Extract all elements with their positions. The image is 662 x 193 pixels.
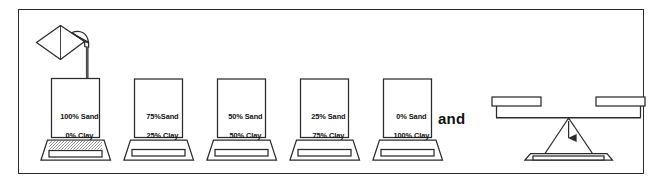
container-5-clay-text: 100% Clay xyxy=(394,131,430,140)
conjunction-text: and xyxy=(438,110,465,127)
container-2-label: 75%Sand 25% Clay xyxy=(134,103,183,149)
illustration-stage xyxy=(0,0,662,193)
container-1-clay-text: 0% Clay xyxy=(66,131,94,140)
container-5-label: 0% Sand 100% Clay xyxy=(383,103,432,149)
container-4-clay-text: 75% Clay xyxy=(313,131,345,140)
figure-root: 100% Sand 0% Clay 75%Sand 25% Clay 50% S… xyxy=(0,0,662,193)
container-2-sand-text: 75%Sand xyxy=(146,112,178,121)
container-4-sand-text: 25% Sand xyxy=(311,112,345,121)
balance-scale-icon xyxy=(492,97,645,160)
container-1-label: 100% Sand 0% Clay xyxy=(51,103,100,149)
container-1-sand-text: 100% Sand xyxy=(60,112,98,121)
line-art-svg xyxy=(0,0,662,193)
container-3-sand-text: 50% Sand xyxy=(228,112,262,121)
container-5-sand-text: 0% Sand xyxy=(396,112,426,121)
container-3-label: 50% Sand 50% Clay xyxy=(217,103,266,149)
container-2-clay-text: 25% Clay xyxy=(147,131,179,140)
container-4-label: 25% Sand 75% Clay xyxy=(300,103,349,149)
watering-can-icon xyxy=(37,26,89,60)
container-3-clay-text: 50% Clay xyxy=(230,131,262,140)
pour-stream xyxy=(87,47,88,78)
